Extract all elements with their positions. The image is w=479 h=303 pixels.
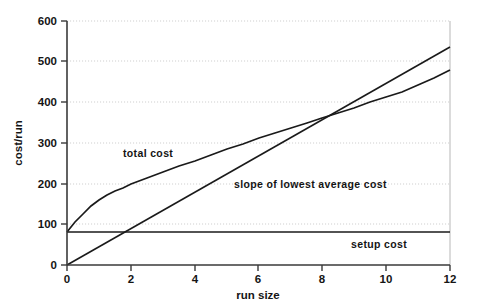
x-tick-label-10: 10 xyxy=(380,273,393,285)
y-axis-title: cost/run xyxy=(12,120,24,165)
y-tick-label-600: 600 xyxy=(38,15,57,27)
y-tick-label-200: 200 xyxy=(38,178,57,190)
x-tick-label-6: 6 xyxy=(255,273,261,285)
annotation-total-cost: total cost xyxy=(123,147,173,159)
x-tick-label-2: 2 xyxy=(128,273,134,285)
annotation-slope-lowest-average-cost: slope of lowest average cost xyxy=(234,178,387,190)
y-tick-label-0: 0 xyxy=(51,259,57,271)
y-tickmarks xyxy=(61,21,67,265)
y-tick-label-100: 100 xyxy=(38,218,57,230)
y-tick-labels: 600 500 400 300 200 100 0 xyxy=(38,15,57,271)
x-tickmarks xyxy=(67,265,450,271)
y-tick-label-400: 400 xyxy=(38,96,57,108)
x-tick-label-0: 0 xyxy=(64,273,70,285)
chart-figure: 600 500 400 300 200 100 0 0 2 4 6 8 10 1… xyxy=(0,0,479,303)
x-tick-label-8: 8 xyxy=(319,273,326,285)
x-axis-title: run size xyxy=(236,289,279,301)
y-tick-label-500: 500 xyxy=(38,55,57,67)
y-tick-label-300: 300 xyxy=(38,137,57,149)
x-tick-labels: 0 2 4 6 8 10 12 xyxy=(64,273,457,285)
x-tick-label-12: 12 xyxy=(444,273,457,285)
x-tick-label-4: 4 xyxy=(192,273,199,285)
annotation-setup-cost: setup cost xyxy=(351,238,407,250)
gridlines xyxy=(67,21,450,224)
